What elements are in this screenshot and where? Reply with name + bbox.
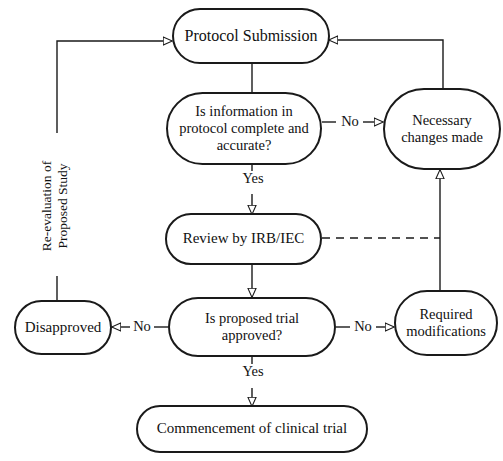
wire-changes-to-submission: [329, 40, 443, 88]
node-necessary-changes[interactable]: Necessary changes made: [383, 88, 501, 170]
flowchart-canvas: Protocol Submission Is information in pr…: [0, 0, 503, 461]
annotation-reevaluation: Re-evaluation of Proposed Study: [39, 136, 75, 276]
annotation-reevaluation-line2: Proposed Study: [55, 136, 71, 276]
node-protocol-submission-label: Protocol Submission: [177, 27, 326, 46]
node-required-modifications-label: Required modifications: [396, 306, 496, 340]
node-review-irb-iec[interactable]: Review by IRB/IEC: [165, 213, 322, 265]
edge-label-no-approval-right: No: [350, 319, 376, 334]
node-trial-approved[interactable]: Is proposed trial approved?: [168, 297, 336, 357]
node-information-complete-label: Is information in protocol complete and …: [168, 103, 320, 154]
edge-label-no-information-complete: No: [337, 114, 363, 129]
node-review-irb-iec-label: Review by IRB/IEC: [175, 230, 313, 248]
node-necessary-changes-label: Necessary changes made: [385, 112, 499, 146]
edge-label-yes-approval: Yes: [238, 364, 268, 379]
node-trial-approved-label: Is proposed trial approved?: [170, 310, 334, 344]
node-commencement-clinical-trial[interactable]: Commencement of clinical trial: [136, 405, 368, 453]
node-disapproved-label: Disapproved: [17, 319, 110, 337]
node-information-complete[interactable]: Is information in protocol complete and …: [166, 92, 322, 165]
wire-reevaluation-upper: [57, 41, 172, 133]
node-required-modifications[interactable]: Required modifications: [394, 290, 498, 356]
node-disapproved[interactable]: Disapproved: [14, 300, 112, 355]
node-protocol-submission[interactable]: Protocol Submission: [172, 8, 330, 64]
edge-label-yes-information-complete: Yes: [238, 171, 268, 186]
node-commencement-clinical-trial-label: Commencement of clinical trial: [149, 420, 355, 438]
annotation-reevaluation-line1: Re-evaluation of: [39, 136, 55, 276]
edge-label-no-approval-left: No: [130, 319, 154, 334]
